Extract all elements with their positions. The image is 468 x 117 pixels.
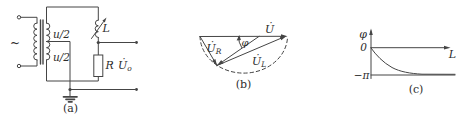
phase-angle-label: φ [242,37,249,48]
inductor-coil [95,20,98,38]
phase-angle-arrowhead-icon [237,35,241,41]
panel-c-caption: (c) [409,83,424,96]
output-voltage-subscript: o [127,64,132,73]
figure-canvas: ~ u/2 u/2 L R U̇o [0,0,468,117]
upper-winding-label: u/2 [53,28,70,40]
u-l-arrowhead-icon [280,36,287,40]
panel-a-caption: (a) [63,102,78,115]
u-l-vector [217,37,284,65]
panel-b-caption: (b) [236,78,252,91]
lower-winding-label: u/2 [53,51,70,63]
circuit-panel: ~ u/2 u/2 L R U̇o [10,7,138,115]
u-r-label: U̇R [207,41,222,55]
top-rail-wire [47,7,99,23]
source-terminal-top-icon [17,16,20,19]
output-terminal-upper-icon [135,41,138,44]
u-r-arrowhead-icon [212,59,217,66]
primary-winding [34,23,37,60]
origin-label: 0 [360,41,367,53]
ac-source-symbol: ~ [10,36,20,50]
resistor-body [94,55,103,77]
bottom-rail-wire [47,60,99,81]
source-terminal-bottom-icon [17,64,20,67]
u-total-label: U̇ [265,22,275,35]
graph-panel: φ 0 −π L (c) [354,28,457,97]
phasor-panel: φ U̇ U̇R U̇L (b) [200,22,288,91]
phase-shifter-figure: ~ u/2 u/2 L R U̇o [0,0,468,117]
output-terminal-lower-icon [135,88,138,91]
y-axis-label: φ [359,28,367,41]
phi-curve [371,48,455,74]
x-axis-label: L [448,48,456,61]
u-l-label: U̇L [252,54,266,68]
u-r-subscript: R [215,47,222,56]
asymptote-label: −π [354,69,371,81]
u-output-arrowhead-icon [217,60,224,65]
primary-lead-top [21,17,37,23]
inductor-label: L [102,22,110,35]
resistor-label: R [105,59,114,72]
output-voltage-label: U̇o [118,58,132,73]
center-tap-wire [47,42,71,90]
primary-lead-bottom [21,60,37,66]
ground-icon [64,90,78,102]
y-axis-arrowhead-icon [369,29,373,36]
u-l-subscript: L [260,60,266,69]
